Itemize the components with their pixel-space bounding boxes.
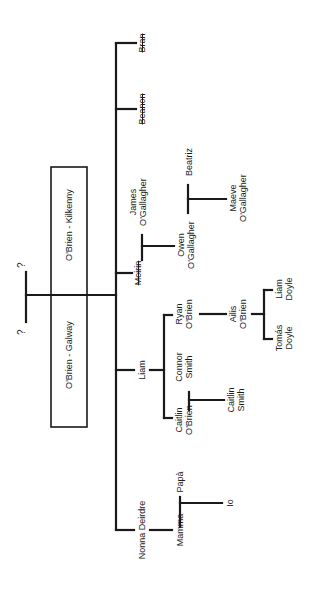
first-name: Tomás — [274, 320, 284, 356]
person-james-ogallagher: James O'Gallagher — [128, 172, 148, 232]
first-name: Caitlin — [226, 378, 236, 422]
first-name: Caitlin — [174, 400, 184, 440]
last-name: Doyle — [284, 272, 294, 306]
person-maeve-ogallagher: Maeve O'Gallagher — [228, 168, 248, 228]
person-owen-ogallagher: Owen O'Gallagher — [176, 215, 196, 275]
person-beatriz: Beatriz — [184, 142, 194, 182]
unknown-ancestor-right: ? — [17, 262, 27, 268]
tree-connectors — [0, 0, 312, 589]
family-tree-diagram: ? ? O'Brien - Kilkenny O'Brien - Galway … — [0, 0, 312, 589]
unknown-ancestor-left: ? — [17, 329, 27, 335]
last-name: O'Gallagher — [138, 172, 148, 232]
first-name: Ryan — [174, 292, 184, 336]
person-liam-doyle: Liam Doyle — [274, 272, 294, 306]
person-caitlin-smith: Caitlin Smith — [226, 378, 246, 422]
person-liam: Liam — [137, 358, 147, 382]
last-name: Doyle — [284, 320, 294, 356]
person-caitlin-obrien: Caitlin O'Brien — [174, 400, 194, 440]
first-name: Ailis — [228, 292, 238, 336]
first-name: Connor — [174, 346, 184, 388]
first-name: Owen — [176, 215, 186, 275]
last-name: O'Brien — [184, 400, 194, 440]
person-moirin: Moirin — [133, 256, 143, 290]
person-connor-smith: Connor Smith — [174, 346, 194, 388]
first-name: James — [128, 172, 138, 232]
person-tomas-doyle: Tomás Doyle — [274, 320, 294, 356]
branch-galway: O'Brien - Galway — [64, 310, 74, 400]
branch-kilkenny: O'Brien - Kilkenny — [64, 180, 74, 270]
last-name: Smith — [236, 378, 246, 422]
person-ryan-obrien: Ryan O'Brien — [174, 292, 194, 336]
person-mamma: Mamma — [175, 510, 185, 550]
last-name: O'Brien — [238, 292, 248, 336]
last-name: Smith — [184, 346, 194, 388]
person-ailis-obrien: Ailis O'Brien — [228, 292, 248, 336]
person-papa: Papà — [175, 468, 185, 496]
last-name: O'Brien — [184, 292, 194, 336]
first-name: Maeve — [228, 168, 238, 228]
first-name: Liam — [274, 272, 284, 306]
person-bran: Bran — [137, 28, 147, 58]
last-name: O'Gallagher — [238, 168, 248, 228]
person-beanon: Beanon — [137, 88, 147, 130]
last-name: O'Gallagher — [186, 215, 196, 275]
person-nonna-deirdre: Nonna Deirdre — [137, 490, 147, 570]
person-io: Io — [225, 496, 235, 510]
